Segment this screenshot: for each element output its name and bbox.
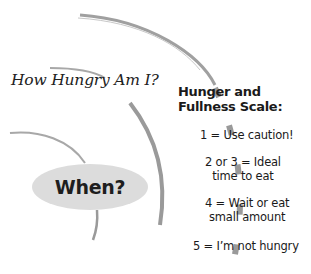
arc-left-large	[130, 103, 162, 225]
question-how-hungry: How Hungry Am I?	[11, 71, 159, 89]
arc-when-top	[10, 132, 85, 163]
scale-item-1-text: 1 = Use caution!	[200, 128, 294, 142]
scale-item-4-line2: small amount	[205, 210, 289, 224]
scale-item-2-3-line1: 2 or 3 = Ideal	[205, 155, 281, 169]
scale-item-2-3-line2: time to eat	[205, 169, 281, 183]
scale-item-1: 1 = Use caution!	[200, 128, 294, 142]
scale-item-4-line1: 4 = Wait or eat	[205, 196, 289, 210]
scale-item-5-text: 5 = I’m not hungry	[193, 239, 299, 253]
scale-item-5: 5 = I’m not hungry	[193, 239, 299, 253]
scale-title: Hunger and Fullness Scale:	[178, 84, 282, 114]
when-label: When?	[55, 176, 125, 198]
scale-item-4: 4 = Wait or eat small amount	[205, 196, 289, 224]
scale-title-line2: Fullness Scale:	[178, 99, 282, 114]
scale-title-line1: Hunger and	[178, 84, 282, 99]
when-bubble: When?	[32, 164, 148, 210]
arc-when-bottom	[93, 210, 97, 240]
scale-item-2-3: 2 or 3 = Ideal time to eat	[205, 155, 281, 183]
